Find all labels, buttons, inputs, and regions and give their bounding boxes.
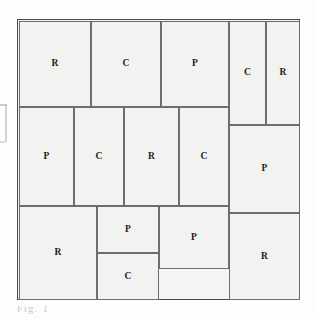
partition-cell-label: R bbox=[261, 252, 268, 262]
partition-cell-label: C bbox=[200, 152, 207, 162]
scan-artifact-margin-low bbox=[0, 141, 5, 143]
partition-cell-label: R bbox=[54, 248, 61, 258]
partition-cell-label: C bbox=[244, 68, 251, 78]
partition-cell-layer: RCPCRPCRCPRPCPR bbox=[18, 20, 299, 299]
partition-cell: R bbox=[124, 107, 179, 206]
partition-cell-label: R bbox=[51, 59, 58, 69]
partition-cell: C bbox=[74, 107, 124, 206]
partition-cell-label: P bbox=[43, 152, 49, 162]
partition-cell-label: C bbox=[122, 59, 129, 69]
partition-cell: R bbox=[229, 213, 300, 300]
partition-cell: C bbox=[91, 21, 161, 107]
partition-cell-label: P bbox=[192, 59, 198, 69]
figure-caption-text: Fig. 1 bbox=[17, 306, 49, 314]
partition-cell: P bbox=[161, 21, 229, 107]
partition-cell: C bbox=[229, 21, 266, 125]
partition-cell: P bbox=[97, 206, 159, 253]
partition-cell: P bbox=[159, 206, 229, 269]
partition-cell: R bbox=[19, 206, 97, 300]
partition-cell-label: C bbox=[95, 152, 102, 162]
partition-cell-label: R bbox=[148, 152, 155, 162]
scan-artifact-margin-bar bbox=[5, 104, 7, 142]
partition-cell: R bbox=[266, 21, 300, 125]
partition-cell-label: P bbox=[261, 164, 267, 174]
figure-caption-clip: Fig. 1 bbox=[17, 306, 300, 318]
partition-cell: C bbox=[97, 253, 159, 300]
partition-cell-label: R bbox=[279, 68, 286, 78]
partition-cell: P bbox=[229, 125, 300, 213]
partition-cell: R bbox=[19, 21, 91, 107]
partition-cell-label: C bbox=[124, 272, 131, 282]
partition-cell: C bbox=[179, 107, 229, 206]
diagram-frame: RCPCRPCRCPRPCPR bbox=[17, 19, 300, 300]
partition-cell: P bbox=[19, 107, 74, 206]
partition-cell-label: P bbox=[191, 233, 197, 243]
partition-cell-label: P bbox=[125, 225, 131, 235]
